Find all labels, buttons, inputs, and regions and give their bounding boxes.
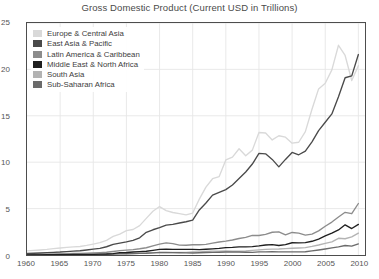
y-axis-tick-label: 10 (0, 158, 10, 167)
legend-color-swatch (33, 40, 42, 47)
legend-item-label: Middle East & North Africa (47, 60, 138, 69)
y-axis-tick-label: 20 (0, 64, 10, 73)
legend-color-swatch (33, 61, 42, 68)
legend-color-swatch (33, 71, 42, 78)
legend-item[interactable]: Latin America & Caribbean (33, 49, 140, 59)
legend-item-label: South Asia (47, 70, 84, 79)
legend-item[interactable]: East Asia & Pacific (33, 39, 140, 49)
legend-item[interactable]: Middle East & North Africa (33, 60, 140, 70)
legend-item-label: Latin America & Caribbean (47, 50, 140, 59)
x-axis-tick-label: 2010 (339, 259, 379, 268)
legend-item-label: East Asia & Pacific (47, 39, 112, 48)
y-axis-tick-label: 15 (0, 111, 10, 120)
gdp-chart-figure: Gross Domestic Product (Current USD in T… (0, 0, 379, 279)
y-axis-tick-label: 5 (0, 205, 10, 214)
legend-item[interactable]: Sub-Saharan Africa (33, 80, 140, 90)
legend-item-label: Europe & Central Asia (47, 29, 124, 38)
y-axis-tick-label: 25 (0, 18, 10, 27)
legend-color-swatch (33, 30, 42, 37)
series-line (27, 224, 358, 254)
legend-item[interactable]: Europe & Central Asia (33, 29, 140, 39)
legend-color-swatch (33, 51, 42, 58)
legend-item[interactable]: South Asia (33, 70, 140, 80)
legend-color-swatch (33, 81, 42, 88)
legend-item-label: Sub-Saharan Africa (47, 80, 115, 89)
chart-legend: Europe & Central AsiaEast Asia & Pacific… (31, 27, 144, 92)
